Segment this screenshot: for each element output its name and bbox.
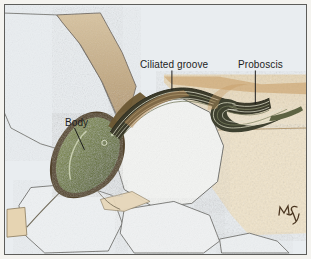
sand-chip-bottom-left xyxy=(7,207,27,237)
illustration-canvas xyxy=(5,5,306,254)
illustration-figure: Ciliated groove Proboscis Body xyxy=(0,0,311,259)
illustration-frame: Ciliated groove Proboscis Body xyxy=(4,4,307,255)
artist-signature xyxy=(276,202,304,226)
label-ciliated-groove: Ciliated groove xyxy=(140,59,208,70)
label-body: Body xyxy=(65,117,88,128)
label-proboscis: Proboscis xyxy=(238,59,283,70)
